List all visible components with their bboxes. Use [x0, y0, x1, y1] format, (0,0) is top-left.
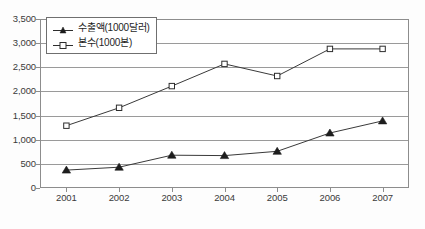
y-tick-mark	[35, 140, 40, 141]
y-tick-mark	[35, 91, 40, 92]
legend-item-stems: 본수(1000본)	[52, 35, 150, 50]
x-tick-label: 2003	[148, 192, 196, 203]
data-point-marker-triangle	[168, 151, 176, 158]
legend-label-stems: 본수(1000본)	[78, 37, 132, 49]
data-point-marker-square	[169, 83, 174, 88]
x-tick-label: 2001	[42, 192, 90, 203]
series-line-2	[66, 49, 382, 126]
data-point-marker-square	[380, 46, 385, 51]
x-tick-label: 2002	[95, 192, 143, 203]
y-tick-mark	[35, 19, 40, 20]
y-tick-mark	[35, 43, 40, 44]
y-tick-label: 500	[0, 159, 36, 169]
open-square-marker-icon	[52, 37, 74, 48]
legend-label-exports: 수출액(1000달러)	[78, 22, 150, 34]
y-tick-label: 1,500	[0, 111, 36, 121]
data-point-marker-square	[64, 123, 69, 128]
data-point-marker-square	[222, 61, 227, 66]
series-line-1	[66, 121, 382, 170]
x-tick-mark	[383, 188, 384, 192]
y-tick-mark	[35, 116, 40, 117]
y-tick-label: 3,500	[0, 14, 36, 24]
y-tick-mark	[35, 164, 40, 165]
y-tick-mark	[35, 67, 40, 68]
data-point-marker-triangle	[378, 117, 386, 124]
legend: 수출액(1000달러) 본수(1000본)	[46, 17, 157, 54]
data-point-marker-square	[116, 105, 121, 110]
data-point-marker-square	[327, 46, 332, 51]
y-axis: 3,5003,0002,5002,0001,5001,0005000	[0, 0, 36, 229]
x-tick-label: 2007	[359, 192, 407, 203]
y-tick-label: 2,000	[0, 86, 36, 96]
filled-triangle-marker-icon	[52, 22, 74, 33]
x-tick-label: 2006	[306, 192, 354, 203]
y-tick-mark	[35, 188, 40, 189]
y-tick-label: 2,500	[0, 62, 36, 72]
y-tick-label: 1,000	[0, 135, 36, 145]
x-tick-mark	[277, 188, 278, 192]
line-chart: 3,5003,0002,5002,0001,5001,0005000 수출액(1…	[0, 0, 425, 229]
x-axis: 2001200220032004200520062007	[40, 192, 409, 208]
x-tick-label: 2005	[253, 192, 301, 203]
x-tick-mark	[330, 188, 331, 192]
x-tick-mark	[172, 188, 173, 192]
x-tick-mark	[66, 188, 67, 192]
y-tick-label: 0	[0, 183, 36, 193]
y-tick-label: 3,000	[0, 38, 36, 48]
legend-item-exports: 수출액(1000달러)	[52, 20, 150, 35]
x-tick-mark	[119, 188, 120, 192]
x-tick-mark	[225, 188, 226, 192]
data-point-marker-square	[275, 73, 280, 78]
x-tick-label: 2004	[201, 192, 249, 203]
